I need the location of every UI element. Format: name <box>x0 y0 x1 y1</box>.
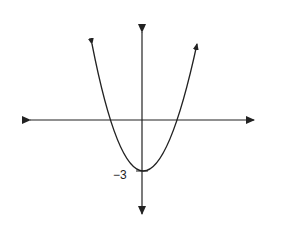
vertex-label: −3 <box>113 168 127 182</box>
parabola-curve <box>92 44 197 171</box>
parabola-graph: −3 <box>0 0 283 247</box>
